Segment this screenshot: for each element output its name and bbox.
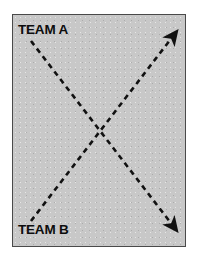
diagram-box: TEAM A TEAM B (12, 14, 186, 247)
team-a-label: TEAM A (18, 23, 68, 37)
caption-text: TWO TEAMS IN COLLISION: (12, 0, 192, 2)
caption-strip: TWO TEAMS IN COLLISION: (12, 0, 192, 2)
team-a-arrow (31, 41, 177, 231)
team-b-arrow (31, 31, 177, 221)
team-b-label: TEAM B (18, 223, 69, 237)
arrow-layer (13, 15, 185, 246)
